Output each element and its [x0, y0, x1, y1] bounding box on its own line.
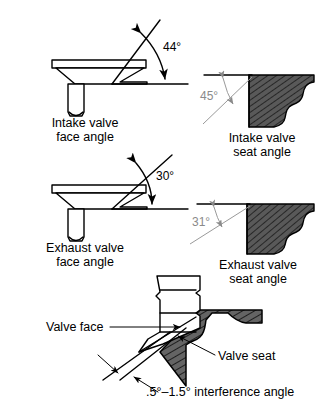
intake-valve-head-plate	[52, 60, 146, 68]
intake-seat-angle-value: 45°	[200, 89, 218, 103]
intake-valve-stem	[68, 84, 84, 116]
intake-face-caption-line2: face angle	[56, 130, 114, 144]
exhaust-seat-caption-line2: seat angle	[229, 272, 287, 286]
intake-seat-caption-line1: Intake valve	[229, 131, 296, 145]
intake-seat-caption-line2: seat angle	[233, 145, 291, 159]
valve-seat-label: Valve seat	[218, 349, 276, 363]
interference-angle-label: .5°–1.5° interference angle	[146, 385, 294, 399]
exhaust-seat-angle-value: 31°	[192, 215, 210, 229]
exhaust-face-angle-value: 30°	[156, 169, 174, 183]
valve-angle-diagram: 44° Intake valve face angle 45° Intake v…	[0, 0, 320, 407]
exhaust-face-caption-line2: face angle	[56, 255, 114, 269]
exhaust-face-caption-line1: Exhaust valve	[46, 241, 124, 255]
exhaust-seat-caption-line1: Exhaust valve	[219, 258, 297, 272]
exhaust-valve-stem	[68, 209, 84, 241]
intake-face-caption-line1: Intake valve	[52, 116, 119, 130]
valve-face-label: Valve face	[46, 320, 103, 334]
intake-face-angle-value: 44°	[163, 40, 181, 54]
